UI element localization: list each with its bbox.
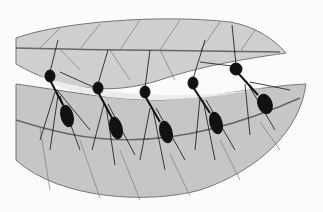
ant-bridge-illustration xyxy=(0,0,323,212)
illustration-svg xyxy=(0,0,323,212)
upper-leaf xyxy=(16,19,286,89)
